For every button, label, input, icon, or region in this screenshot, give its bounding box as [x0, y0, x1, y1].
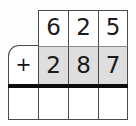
digit-addend1-tens: 2 — [76, 16, 91, 39]
addend-row-2: 2 8 7 — [38, 46, 128, 85]
digit-addend1-hundreds: 6 — [46, 16, 61, 39]
cell-addend2-tens[interactable]: 8 — [68, 46, 98, 85]
digit-grid: 6 2 5 2 8 7 — [38, 10, 128, 120]
cell-addend2-ones[interactable]: 7 — [98, 46, 128, 85]
cell-addend1-tens[interactable]: 2 — [68, 10, 98, 46]
cell-addend1-hundreds[interactable]: 6 — [38, 10, 68, 46]
digit-addend2-ones: 7 — [106, 54, 121, 77]
sum-bar — [8, 84, 128, 88]
answer-row-left-edge — [8, 88, 38, 120]
digit-addend2-hundreds: 2 — [46, 54, 61, 77]
cell-addend1-ones[interactable]: 5 — [98, 10, 128, 46]
digit-addend2-tens: 8 — [76, 54, 91, 77]
cell-addend2-hundreds[interactable]: 2 — [38, 46, 68, 85]
digit-addend1-ones: 5 — [106, 16, 121, 39]
cell-answer-tens[interactable] — [68, 85, 98, 119]
cell-answer-ones[interactable] — [98, 85, 128, 119]
addend-row-1: 6 2 5 — [38, 10, 128, 46]
plus-icon: + — [16, 55, 32, 74]
cell-answer-hundreds[interactable] — [38, 85, 68, 119]
operator-cell: + — [8, 45, 38, 85]
addition-worksheet: + 6 2 5 2 8 7 — [0, 0, 136, 126]
answer-row — [38, 85, 128, 120]
answer-row-bottom-edge — [8, 119, 39, 121]
